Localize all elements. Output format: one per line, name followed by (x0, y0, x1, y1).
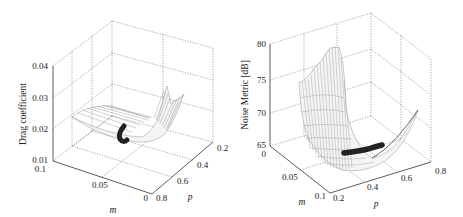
drag-z-tick: 0.03 (32, 93, 48, 103)
noise-p-tick: 0.4 (367, 182, 379, 192)
drag-p-tick: 0.6 (177, 176, 189, 186)
drag-optimum-curve (119, 126, 127, 141)
drag-grid (53, 21, 213, 177)
drag-chart: 0.04 0.03 0.02 0.01 0.1 0.05 0 0.2 0.4 0… (18, 21, 228, 215)
figure: 0.04 0.03 0.02 0.01 0.1 0.05 0 0.2 0.4 0… (0, 0, 463, 217)
drag-m-tick: 0.1 (35, 164, 46, 174)
drag-m-tick: 0 (144, 193, 149, 203)
noise-m-tick: 0.1 (315, 191, 326, 201)
drag-p-tick: 0.8 (156, 193, 168, 203)
noise-m-tick: 0 (262, 149, 267, 159)
noise-p-tick: 0.8 (435, 166, 447, 176)
drag-m-label: m (110, 205, 117, 215)
noise-p-tick: 0.2 (333, 193, 344, 203)
noise-chart: 80 75 70 65 0 0.05 0.1 0.2 0.4 0.6 0.8 N… (240, 13, 447, 209)
noise-z-label: Noise Metric [dB] (240, 60, 250, 130)
noise-m-tick: 0.05 (282, 172, 298, 182)
noise-z-tick: 80 (257, 39, 267, 49)
drag-z-tick: 0.02 (32, 124, 48, 134)
noise-m-label: m (299, 197, 306, 207)
drag-z-label: Drag coefficient (18, 83, 28, 145)
noise-p-label: p (373, 199, 379, 209)
noise-z-tick: 70 (257, 108, 267, 118)
drag-p-tick: 0.4 (197, 160, 209, 170)
noise-p-tick: 0.6 (401, 173, 413, 183)
drag-m-tick: 0.05 (92, 180, 108, 190)
noise-z-tick: 75 (257, 75, 267, 85)
drag-z-tick: 0.04 (32, 61, 48, 71)
drag-p-tick: 0.2 (217, 143, 228, 153)
drag-p-label: p (187, 192, 193, 202)
